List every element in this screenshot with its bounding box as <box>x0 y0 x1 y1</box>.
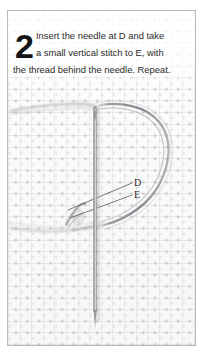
point-label-e: E <box>134 190 140 200</box>
point-label-d: D <box>134 178 141 188</box>
caption-block: 2 Insert the needle at D and take a smal… <box>8 11 196 83</box>
caption-line-1: Insert the needle at D and take <box>36 30 164 41</box>
illustration-page: D E 2 Insert the needle at D and take a … <box>0 0 205 346</box>
step-number: 2 <box>15 29 33 63</box>
caption-line-2: a small vertical stitch to E, with <box>36 47 164 58</box>
caption-line-3: the thread behind the needle. Repeat. <box>13 64 170 75</box>
illustration-frame: D E 2 Insert the needle at D and take a … <box>7 10 196 346</box>
